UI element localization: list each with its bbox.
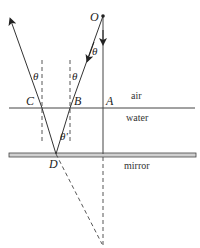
- angle-theta-B: θ: [72, 70, 78, 82]
- label-C: C: [26, 94, 35, 108]
- virtual-ray-dashed: [56, 154, 102, 244]
- label-D: D: [48, 157, 58, 171]
- reflection-refraction-diagram: O A B C D θ θ θ θ' air water mirror: [0, 0, 200, 248]
- medium-air-label: air: [131, 90, 142, 101]
- label-O: O: [90, 10, 99, 24]
- label-A: A: [105, 94, 114, 108]
- angle-theta-prime-D: θ': [60, 130, 68, 142]
- label-B: B: [74, 94, 82, 108]
- medium-water-label: water: [126, 112, 149, 123]
- point-O-dot: [101, 14, 105, 18]
- reflected-ray-DC: [42, 108, 56, 154]
- angle-theta-C: θ: [33, 70, 39, 82]
- angle-theta-O: θ: [92, 45, 98, 57]
- mirror-label: mirror: [124, 160, 150, 171]
